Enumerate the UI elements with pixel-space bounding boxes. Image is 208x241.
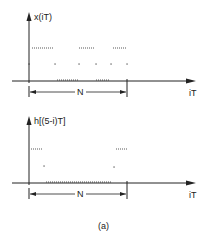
sample-dot: [28, 63, 29, 64]
bracket-left-arrow-icon: [30, 90, 36, 94]
y-axis-arrow-icon: [27, 116, 32, 125]
sample-dot: [78, 63, 79, 64]
bottom-y-axis-label: h[(5-i)T]: [34, 117, 66, 126]
top-plot: [12, 12, 196, 97]
sample-dot: [43, 165, 44, 166]
bottom-plot: [12, 116, 196, 199]
x-axis-arrow-icon: [186, 181, 196, 186]
sample-dot: [54, 63, 55, 64]
bracket-right-arrow-icon: [120, 90, 126, 94]
bracket-left-arrow-icon: [30, 192, 36, 196]
x-axis-arrow-icon: [186, 79, 196, 84]
sample-dot: [95, 63, 96, 64]
top-period-label: N: [75, 88, 86, 97]
figure-caption: (a): [98, 222, 109, 231]
signal-diagram: [0, 0, 208, 241]
sample-dot: [126, 63, 127, 64]
sample-dot: [113, 166, 114, 167]
top-x-axis-label: iT: [189, 89, 197, 98]
y-axis-arrow-icon: [27, 12, 32, 21]
bottom-period-label: N: [75, 190, 86, 199]
top-y-axis-label: x(iT): [34, 13, 52, 22]
bracket-right-arrow-icon: [120, 192, 126, 196]
bottom-x-axis-label: iT: [189, 191, 197, 200]
sample-dot: [110, 63, 111, 64]
